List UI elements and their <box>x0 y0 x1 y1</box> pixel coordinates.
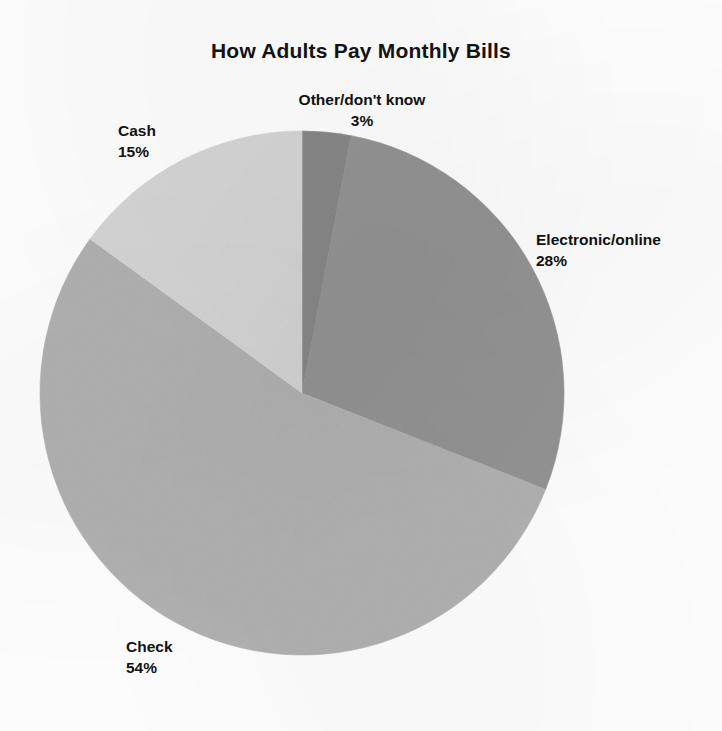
pie-label-electronic-value: 28% <box>536 251 706 272</box>
pie-label-cash-name: Cash <box>118 122 156 139</box>
pie-label-check-name: Check <box>126 638 173 655</box>
pie-label-other: Other/don't know 3% <box>287 90 437 131</box>
pie-label-other-name: Other/don't know <box>299 91 426 108</box>
pie-label-electronic-name: Electronic/online <box>536 231 661 248</box>
pie-label-other-value: 3% <box>287 111 437 132</box>
pie-label-check: Check 54% <box>126 637 216 678</box>
pie-label-electronic: Electronic/online 28% <box>536 230 706 271</box>
pie-label-check-value: 54% <box>126 658 216 679</box>
pie-label-cash: Cash 15% <box>118 121 208 162</box>
pie-label-cash-value: 15% <box>118 142 208 163</box>
pie-chart-figure: How Adults Pay Monthly Bills Other/don't… <box>0 0 722 731</box>
